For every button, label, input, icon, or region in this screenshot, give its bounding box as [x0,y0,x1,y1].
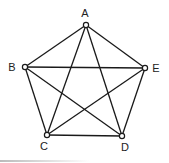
node-label-a: A [81,7,89,19]
nodes [22,22,147,138]
node-label-b: B [8,61,15,73]
node-e [142,65,147,70]
edge-b-e [25,67,145,68]
edge-a-e [86,25,145,68]
edge-d-e [122,68,145,136]
edge-a-b [25,25,86,67]
edges [25,25,145,136]
graph-diagram: ABECD [0,0,169,163]
node-label-e: E [152,62,159,74]
node-label-d: D [121,141,129,153]
edge-b-d [25,67,122,136]
node-a [83,22,88,27]
node-d [119,133,124,138]
edge-a-c [47,25,86,135]
bottom-divider [0,160,90,162]
node-c [44,132,49,137]
node-label-c: C [40,140,48,152]
edge-c-e [47,68,145,135]
node-b [22,64,27,69]
edge-b-c [25,67,47,135]
edge-a-d [86,25,122,136]
edge-c-d [47,135,122,136]
